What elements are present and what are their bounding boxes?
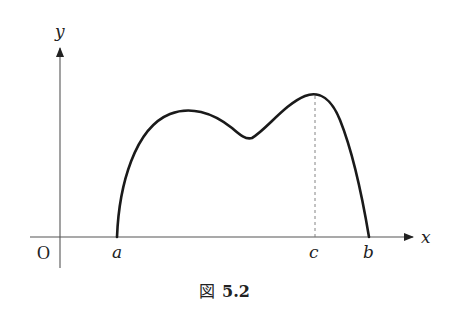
figure: y x O a c b 図 5.2 [0, 0, 457, 317]
point-c-label: c [309, 242, 319, 262]
figure-caption-prefix: 図 [199, 282, 215, 301]
point-b-label: b [363, 242, 374, 262]
x-axis-label: x [421, 227, 431, 247]
origin-label: O [37, 243, 50, 263]
figure-caption-number: 5.2 [222, 282, 250, 301]
function-curve [117, 94, 369, 237]
y-axis-label: y [54, 21, 65, 41]
point-a-label: a [112, 242, 122, 262]
